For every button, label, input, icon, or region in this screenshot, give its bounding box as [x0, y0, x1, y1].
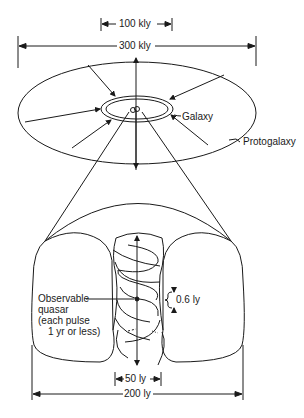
label-quasar-line3: (each pulse: [38, 315, 90, 326]
galaxy-ring: [101, 96, 173, 122]
protogalaxy-quasar-diagram: [0, 0, 304, 418]
label-quasar-line4: 1 yr or less): [48, 326, 100, 337]
pulse-spacing-bracket: [165, 287, 174, 313]
right-lobe: [162, 233, 244, 362]
label-pulse-spacing: 0.6 ly: [176, 294, 200, 305]
helical-jet: [113, 245, 164, 365]
label-300kly: 300 kly: [119, 40, 151, 51]
label-galaxy: Galaxy: [182, 111, 213, 122]
label-quasar-line1: Observable: [38, 293, 89, 304]
protogalaxy-disk: [18, 62, 256, 164]
infall-arrows: [25, 65, 224, 148]
label-50ly: 50 ly: [125, 373, 146, 384]
label-100kly: 100 kly: [119, 18, 151, 29]
label-protogalaxy: Protogalaxy: [243, 136, 296, 147]
outer-lobe-top: [45, 204, 231, 242]
label-200ly: 200 ly: [124, 388, 151, 399]
label-quasar-line2: quasar: [38, 304, 69, 315]
